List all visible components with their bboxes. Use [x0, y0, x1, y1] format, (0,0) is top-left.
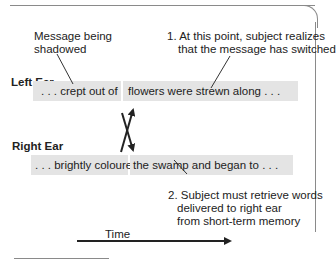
note1-pointer-line	[211, 56, 230, 88]
shadowed-pointer-line	[57, 54, 73, 84]
note2-pointer-line	[174, 160, 187, 174]
